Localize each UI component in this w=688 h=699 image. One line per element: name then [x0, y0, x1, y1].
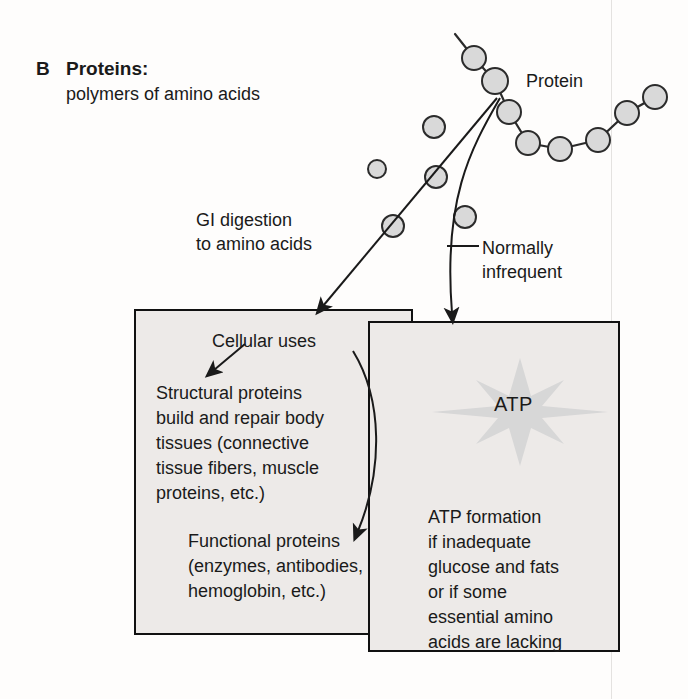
panel-letter: B [36, 58, 50, 80]
cellular-uses-label: Cellular uses [212, 329, 316, 353]
normally-infrequent-label: Normally infrequent [482, 236, 562, 284]
structural-proteins-text: Structural proteins build and repair bod… [156, 381, 324, 506]
free-amino-acid-circles [368, 116, 476, 237]
gi-digestion-arrow [323, 98, 497, 306]
atp-formation-text: ATP formation if inadequate glucose and … [428, 505, 562, 655]
functional-proteins-text: Functional proteins (enzymes, antibodies… [188, 529, 363, 604]
panel-subtitle: polymers of amino acids [66, 84, 260, 105]
atp-label: ATP [494, 393, 533, 416]
diagram-page: ATP [0, 0, 688, 699]
gi-digestion-label: GI digestion to amino acids [196, 208, 312, 256]
page-title: Proteins: [66, 58, 148, 80]
protein-chain-residues [462, 46, 667, 161]
protein-label: Protein [526, 69, 583, 93]
